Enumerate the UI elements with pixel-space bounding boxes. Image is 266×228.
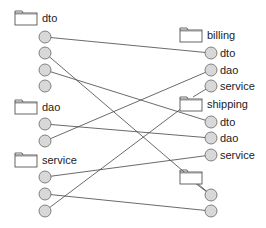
right-shipping-dto-label: dto: [220, 116, 235, 128]
node-circle: [205, 47, 217, 59]
node-circle: [39, 171, 51, 183]
node-circle: [39, 80, 51, 92]
node-circle: [205, 149, 217, 161]
right-billing-folder-icon: [180, 28, 202, 42]
right-billing-label: billing: [207, 29, 235, 41]
node-circle: [39, 31, 51, 43]
right-billing-dto-label: dto: [220, 47, 235, 59]
right-billing-dao-label: dao: [220, 64, 238, 76]
left-dto-folder-icon: [15, 11, 37, 25]
edge-line: [45, 70, 211, 122]
node-circle: [39, 47, 51, 59]
right-billing-service-label: service: [220, 80, 255, 92]
left-dao-label: dao: [42, 101, 60, 113]
node-circle: [39, 64, 51, 76]
left-service-label: service: [42, 154, 77, 166]
node-circle: [205, 80, 217, 92]
node-circle: [205, 116, 217, 128]
left-dto-label: dto: [42, 12, 57, 24]
node-circle: [39, 135, 51, 147]
nodes: dtodaoservicebillingdtodaoserviceshippin…: [15, 11, 255, 217]
left-dao-folder-icon: [15, 100, 37, 114]
node-circle: [39, 188, 51, 200]
left-service-folder-icon: [15, 153, 37, 167]
right-shipping-label: shipping: [207, 98, 248, 110]
edges: [45, 37, 211, 211]
node-circle: [205, 132, 217, 144]
node-circle: [39, 205, 51, 217]
node-circle: [39, 118, 51, 130]
right-shipping-dao-label: dao: [220, 132, 238, 144]
node-circle: [205, 64, 217, 76]
right-shipping-service-label: service: [220, 149, 255, 161]
edge-line: [45, 124, 211, 138]
right-unnamed-folder-icon: [180, 170, 202, 184]
dependency-diagram: dtodaoservicebillingdtodaoserviceshippin…: [0, 0, 266, 228]
node-circle: [205, 205, 217, 217]
right-shipping-folder-icon: [180, 97, 202, 111]
edge-line: [45, 194, 211, 211]
node-circle: [205, 189, 217, 201]
